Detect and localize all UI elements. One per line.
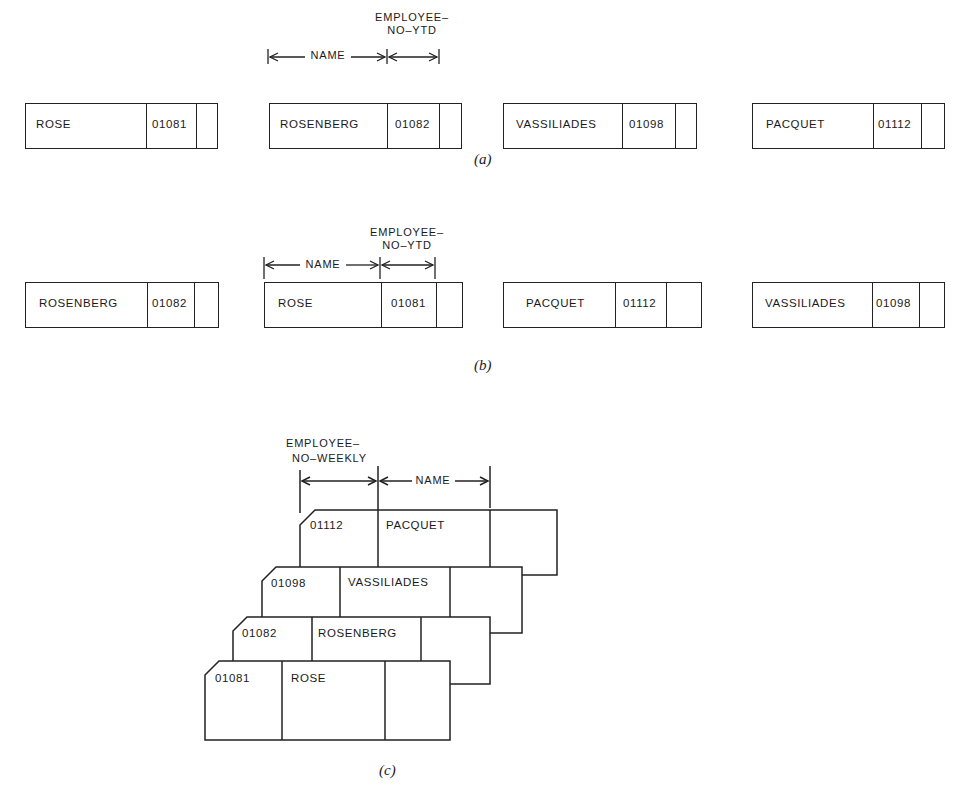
card-employee-no: 01081 xyxy=(215,672,250,684)
panel-caption: (c) xyxy=(379,762,396,779)
punched-card-stack xyxy=(0,0,967,791)
card-employee-no: 01112 xyxy=(310,519,343,531)
card-name: VASSILIADES xyxy=(348,576,429,588)
card-employee-no: 01098 xyxy=(271,577,306,589)
card-name: PACQUET xyxy=(386,519,445,531)
card-name: ROSE xyxy=(291,672,326,684)
card-employee-no: 01082 xyxy=(242,627,277,639)
card-name: ROSENBERG xyxy=(318,627,397,639)
